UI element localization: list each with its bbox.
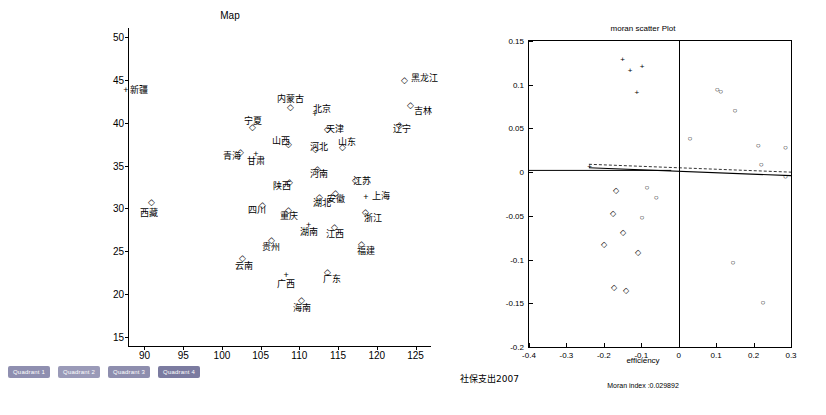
map-y-tick-mark (125, 80, 129, 81)
moran-y-tick-label: 0 (520, 168, 524, 177)
map-x-tick-label: 90 (139, 350, 150, 361)
moran-x-tick-mark (791, 343, 792, 347)
map-y-tick-label: 30 (113, 203, 124, 214)
map-point-label: 广东 (323, 274, 341, 283)
map-point-label: 四川 (248, 206, 266, 215)
map-x-tick-label: 125 (407, 350, 424, 361)
map-y-tick-mark (125, 251, 129, 252)
map-y-tick-label: 40 (113, 117, 124, 128)
moran-title: moran scatter Plot (460, 24, 826, 33)
map-point-label: 辽宁 (393, 125, 411, 134)
moran-y-tick-label: 0.05 (508, 124, 524, 133)
map-data-point: ◇ (407, 101, 414, 110)
moran-data-point: ◇ (611, 284, 617, 292)
moran-data-point: ◇ (610, 210, 616, 218)
map-x-tick-mark (416, 346, 417, 350)
moran-data-point: ○ (783, 173, 788, 181)
map-point-label: 新疆 (130, 85, 148, 94)
map-data-point: ◇ (287, 103, 294, 112)
map-point-label: 江苏 (353, 176, 371, 185)
map-point-label: 河北 (310, 142, 328, 151)
legend-item-quadrant-3[interactable]: Quadrant 3 (108, 366, 150, 378)
map-x-tick-mark (261, 346, 262, 350)
moran-data-point: ○ (732, 107, 737, 115)
moran-data-point: ○ (654, 194, 659, 202)
map-y-tick-label: 50 (113, 31, 124, 42)
map-y-tick-mark (125, 208, 129, 209)
legend-item-quadrant-2[interactable]: Quadrant 2 (58, 366, 100, 378)
legend-item-quadrant-4[interactable]: Quadrant 4 (158, 366, 200, 378)
moran-panel: moran scatter Plot -0.2-0.15-0.1-0.0500.… (460, 0, 826, 415)
moran-data-point: ◇ (620, 229, 626, 237)
moran-y-tick-mark (529, 347, 533, 348)
map-point-label: 海南 (293, 304, 311, 313)
map-data-point: ◇ (401, 75, 408, 84)
map-point-label: 河南 (310, 170, 328, 179)
moran-x-axis-label: efficiency (460, 356, 826, 365)
moran-fit-line (529, 41, 791, 347)
moran-y-tick-label: -0.15 (506, 299, 524, 308)
map-x-tick-mark (338, 346, 339, 350)
map-point-label: 宁夏 (244, 116, 262, 125)
map-y-tick-label: 35 (113, 160, 124, 171)
map-data-point: ◇ (148, 197, 155, 206)
map-data-point: + (363, 193, 368, 202)
map-point-label: 江西 (326, 230, 344, 239)
moran-data-point: ◇ (613, 187, 619, 195)
map-y-tick-mark (125, 337, 129, 338)
moran-data-point: + (628, 67, 633, 75)
map-y-tick-mark (125, 166, 129, 167)
moran-data-point: ◇ (623, 287, 629, 295)
moran-data-point: ○ (761, 299, 766, 307)
map-x-tick-mark (299, 346, 300, 350)
moran-data-point: ○ (783, 144, 788, 152)
map-y-tick-label: 15 (113, 332, 124, 343)
moran-data-point: ◇ (601, 241, 607, 249)
moran-data-point: ○ (718, 88, 723, 96)
map-y-tick-mark (125, 37, 129, 38)
moran-data-point: ○ (640, 214, 645, 222)
map-point-label: 福建 (357, 247, 375, 256)
moran-data-point: + (587, 163, 592, 171)
map-point-label: 云南 (235, 262, 253, 271)
map-point-label: 黑龙江 (411, 73, 438, 82)
map-y-tick-mark (125, 294, 129, 295)
map-point-label: 青海 (223, 152, 241, 161)
moran-data-point: + (634, 89, 639, 97)
map-y-tick-label: 20 (113, 289, 124, 300)
map-point-label: 内蒙古 (277, 95, 304, 104)
map-point-label: 广西 (277, 280, 295, 289)
map-x-tick-mark (222, 346, 223, 350)
map-point-label: 山西 (272, 136, 290, 145)
map-panel: Map 152025303540455090951001051101151201… (0, 0, 460, 415)
map-x-tick-label: 120 (368, 350, 385, 361)
map-point-label: 湖北 (313, 199, 331, 208)
map-x-tick-label: 115 (330, 350, 346, 361)
map-point-label: 贵州 (262, 243, 280, 252)
moran-y-tick-label: 0.1 (513, 80, 524, 89)
moran-data-point: ○ (731, 259, 736, 267)
map-point-label: 浙江 (364, 213, 382, 222)
moran-y-tick-label: 0.15 (508, 37, 524, 46)
map-point-label: 西藏 (140, 208, 158, 217)
moran-data-point: + (620, 56, 625, 64)
map-x-tick-label: 100 (214, 350, 231, 361)
map-y-tick-mark (125, 123, 129, 124)
moran-y-tick-label: -0.1 (510, 255, 524, 264)
moran-y-tick-label: -0.05 (506, 211, 524, 220)
moran-data-point: ○ (759, 161, 764, 169)
map-point-label: 天津 (326, 124, 344, 133)
map-x-tick-mark (144, 346, 145, 350)
map-point-label: 重庆 (280, 212, 298, 221)
map-data-point: + (123, 85, 128, 94)
map-point-label: 上海 (372, 192, 390, 201)
dataset-note: 社保支出2007 (460, 372, 570, 385)
legend-item-quadrant-1[interactable]: Quadrant 1 (8, 366, 50, 378)
map-point-label: 陕西 (273, 182, 291, 191)
map-point-label: 山东 (338, 138, 356, 147)
map-plot-area: 15202530354045509095100105110115120125+新… (128, 28, 431, 347)
quadrant-legend: Quadrant 1Quadrant 2Quadrant 3Quadrant 4 (8, 366, 200, 378)
map-point-label: 甘肃 (247, 157, 265, 166)
map-x-tick-label: 105 (252, 350, 269, 361)
moran-data-point: ◇ (635, 249, 641, 257)
